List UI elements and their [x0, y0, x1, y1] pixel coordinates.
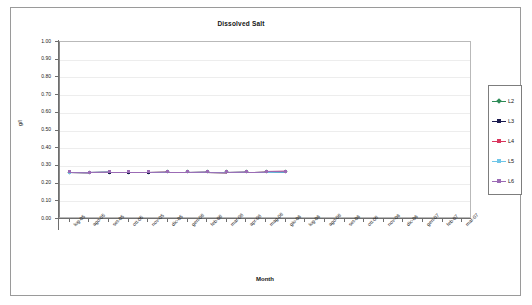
x-axis-tick-label: dic-06	[405, 223, 409, 227]
data-point-l4	[108, 170, 111, 173]
data-point-l3	[147, 171, 150, 174]
series-line-l2	[148, 172, 168, 173]
x-axis-tick-label: ott-06	[366, 223, 370, 227]
y-axis-tick-label: 0.50	[25, 127, 51, 132]
series-line-l5	[227, 172, 247, 173]
data-point-l5	[245, 170, 248, 173]
data-point-l6	[186, 170, 189, 173]
x-axis-tick	[304, 218, 305, 222]
series-line-l4	[188, 172, 208, 173]
data-point-l5	[206, 170, 209, 173]
y-axis-tick	[55, 76, 59, 77]
data-point-l3	[206, 170, 209, 173]
series-line-l5	[246, 172, 266, 173]
legend-swatch-icon	[491, 97, 507, 105]
gridline	[60, 166, 470, 167]
data-point-l4	[206, 170, 209, 173]
data-point-l2	[146, 170, 150, 174]
x-axis-tick	[187, 218, 188, 222]
series-line-l5	[148, 172, 168, 173]
legend-swatch-icon	[491, 177, 507, 185]
gridline	[60, 184, 470, 185]
series-line-l4	[227, 172, 247, 173]
series-line-l6	[148, 172, 168, 173]
series-layer	[60, 42, 470, 217]
x-axis-tick-label: mar-06	[229, 223, 233, 227]
x-axis-tick-label: feb-07	[445, 223, 449, 227]
x-axis-tick	[147, 218, 148, 222]
legend-swatch-icon	[491, 157, 507, 165]
legend-label: L5	[508, 158, 514, 164]
data-point-l2	[225, 170, 229, 174]
x-axis-tick	[245, 218, 246, 222]
data-point-l4	[284, 170, 287, 173]
chart-frame: Dissolved Salt g/l 1.000.900.800.700.600…	[10, 7, 521, 296]
y-axis-tick	[55, 147, 59, 148]
series-line-l2	[109, 172, 129, 173]
x-axis-tick-label: dic-05	[170, 223, 174, 227]
x-axis-tick-label: gen-06	[190, 223, 194, 227]
y-axis-tick-label: 0.20	[25, 180, 51, 185]
data-point-l6	[127, 170, 130, 173]
y-axis-tick	[55, 112, 59, 113]
x-axis-tick	[69, 218, 70, 222]
series-line-l3	[266, 171, 286, 172]
x-axis-tick	[285, 218, 286, 222]
x-axis-tick-label: set-06	[347, 223, 351, 227]
legend-swatch-icon	[491, 137, 507, 145]
data-point-l5	[186, 170, 189, 173]
x-axis-tick-label: giu-06	[288, 223, 292, 227]
y-axis-tick	[55, 41, 59, 42]
data-point-l3	[166, 170, 169, 173]
legend-item-l2[interactable]: L2	[489, 92, 521, 110]
data-point-l3	[127, 171, 130, 174]
data-point-l5	[265, 170, 268, 173]
legend-swatch-icon	[491, 117, 507, 125]
data-point-l3	[225, 170, 228, 173]
gridline	[60, 148, 470, 149]
series-line-l6	[89, 172, 109, 173]
x-axis-tick-label: nov-06	[386, 223, 390, 227]
data-point-l2	[166, 170, 170, 174]
chart-screenshot: Dissolved Salt g/l 1.000.900.800.700.600…	[0, 0, 532, 305]
series-line-l4	[246, 171, 266, 172]
gridline	[60, 95, 470, 96]
series-line-l5	[266, 171, 286, 172]
series-line-l6	[227, 172, 247, 173]
legend-label: L6	[508, 178, 514, 184]
x-axis-tick	[383, 218, 384, 222]
x-axis-tick	[128, 218, 129, 222]
data-point-l2	[244, 170, 248, 174]
series-line-l6	[70, 172, 90, 173]
data-point-l3	[245, 170, 248, 173]
series-line-l6	[168, 172, 188, 173]
data-point-l2	[264, 169, 268, 173]
data-point-l6	[265, 170, 268, 173]
x-axis-tick	[167, 218, 168, 222]
gridline	[60, 201, 470, 202]
y-axis-tick	[55, 183, 59, 184]
data-point-l5	[68, 171, 71, 174]
legend-item-l4[interactable]: L4	[489, 132, 521, 150]
data-point-l4	[186, 170, 189, 173]
x-axis-tick-label: set-05	[111, 223, 115, 227]
legend-item-l3[interactable]: L3	[489, 112, 521, 130]
data-point-l3	[265, 170, 268, 173]
series-line-l3	[188, 172, 208, 173]
legend-item-l5[interactable]: L5	[489, 152, 521, 170]
series-line-l4	[148, 172, 168, 173]
x-axis-tick-label: lug-06	[307, 223, 311, 227]
data-point-l4	[166, 170, 169, 173]
x-axis-tick-label: gen-07	[425, 223, 429, 227]
y-axis-tick	[55, 94, 59, 95]
x-axis-tick	[363, 218, 364, 222]
series-line-l2	[89, 172, 109, 173]
x-axis-tick	[344, 218, 345, 222]
legend-item-l6[interactable]: L6	[489, 172, 521, 190]
series-line-l5	[168, 172, 188, 173]
data-point-l6	[225, 170, 228, 173]
y-axis-tick-label: 1.00	[25, 39, 51, 44]
gridline	[60, 60, 470, 61]
legend-label: L4	[508, 138, 514, 144]
series-line-l5	[70, 172, 90, 173]
